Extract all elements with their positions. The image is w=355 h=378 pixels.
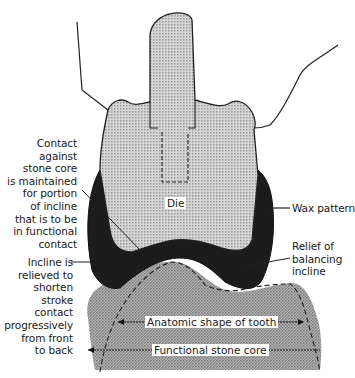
right-tissue-line [254,45,338,128]
label-anatomic-shape: Anatomic shape of tooth [145,316,278,328]
label-die: Die [165,197,186,209]
functional-arrow-left [88,347,94,353]
label-contact: Contact against stone core is maintained… [0,137,77,250]
label-functional-core: Functional stone core [152,344,269,356]
label-relief: Relief of balancing incline [292,240,342,278]
label-wax-pattern: Wax pattern [292,202,355,215]
left-tissue-line [77,22,108,110]
die-body [100,13,258,252]
label-incline: Incline is relieved to shorten stroke co… [0,256,73,357]
